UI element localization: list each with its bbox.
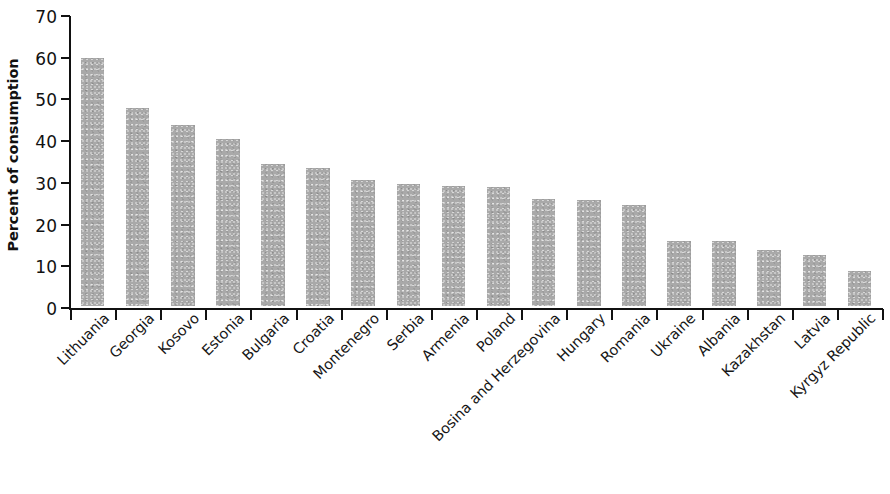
bar: [171, 125, 194, 306]
bar: [487, 187, 510, 306]
y-axis-tick-label: 20: [35, 216, 57, 236]
bar: [532, 199, 555, 306]
x-axis-label: Serbia: [384, 310, 428, 354]
bar: [848, 271, 871, 306]
y-axis-tick-label: 50: [35, 90, 57, 110]
x-axis-label: Latvia: [792, 310, 834, 352]
bar: [216, 139, 239, 306]
y-axis-tick-label: 0: [46, 299, 57, 319]
y-axis-title: Percent of consumption: [0, 0, 26, 310]
x-axis-label: Lithuania: [54, 310, 112, 368]
x-axis-label: Bulgaria: [239, 310, 292, 363]
y-axis-tick: [61, 224, 70, 226]
y-axis-tick-label: 70: [35, 7, 57, 27]
y-axis-tick: [61, 15, 70, 17]
bar: [622, 205, 645, 306]
bar: [126, 108, 149, 306]
bar: [306, 168, 329, 306]
y-axis-tick: [61, 307, 70, 309]
y-axis-tick: [61, 140, 70, 142]
x-axis-label: Kyrgyz Republic: [787, 310, 878, 401]
y-axis-tick: [61, 57, 70, 59]
bar: [351, 180, 374, 306]
bar: [803, 255, 826, 306]
y-axis-tick: [61, 265, 70, 267]
bar: [757, 250, 780, 306]
y-axis-title-label: Percent of consumption: [5, 59, 21, 252]
x-axis-labels: LithuaniaGeorgiaKosovoEstoniaBulgariaCro…: [70, 310, 882, 494]
y-axis-tick-label: 10: [35, 257, 57, 277]
y-axis-tick-label: 60: [35, 49, 57, 69]
x-axis-label: Ukraine: [648, 310, 698, 360]
bar: [81, 58, 104, 306]
x-axis-tick: [882, 309, 884, 320]
y-axis-tick-label: 30: [35, 174, 57, 194]
y-axis-tick: [61, 182, 70, 184]
bar: [712, 241, 735, 306]
plot-area: 010203040506070: [70, 16, 882, 308]
bar: [667, 241, 690, 306]
y-axis-tick: [61, 98, 70, 100]
bar: [577, 200, 600, 306]
bar: [442, 186, 465, 306]
x-axis-label: Georgia: [106, 310, 157, 361]
bar: [261, 164, 284, 306]
x-axis-label: Armenia: [419, 310, 473, 364]
x-axis-label: Poland: [473, 310, 518, 355]
bar: [397, 184, 420, 306]
x-axis-label: Kosovo: [155, 310, 202, 357]
y-axis-tick-label: 40: [35, 132, 57, 152]
bar-chart: Percent of consumption 010203040506070 L…: [0, 0, 890, 494]
